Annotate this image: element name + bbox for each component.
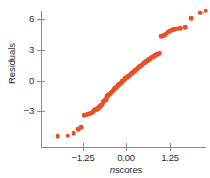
scatter-point (102, 99, 107, 104)
y-axis-label: Residuals (6, 29, 17, 99)
y-tick-mark (37, 111, 45, 112)
scatter-point (129, 71, 134, 76)
scatter-point (143, 60, 148, 65)
scatter-point (165, 30, 170, 35)
x-axis-line (42, 147, 206, 148)
scatter-point (183, 25, 188, 30)
scatter-point (141, 62, 146, 67)
scatter-point (164, 32, 169, 37)
scatter-point (142, 60, 147, 65)
scatter-point (116, 83, 121, 88)
y-tick-mark (37, 50, 45, 51)
scatter-point (178, 26, 183, 31)
scatter-point (109, 90, 114, 95)
scatter-point (112, 87, 117, 92)
scatter-point (124, 75, 129, 80)
scatter-point (119, 81, 124, 86)
x-axis-label: nscores (84, 164, 168, 175)
x-tick-mark (170, 143, 171, 151)
scatter-point (127, 73, 132, 78)
y-tick-mark (37, 19, 45, 20)
scatter-point (55, 134, 60, 139)
scatter-point (134, 67, 139, 72)
scatter-point (76, 127, 81, 132)
scatter-point (91, 109, 96, 114)
scatter-point (167, 29, 172, 34)
scatter-point (96, 106, 101, 111)
scatter-point (97, 105, 102, 110)
scatter-point (130, 71, 135, 76)
scatter-point (118, 81, 123, 86)
scatter-point (88, 111, 93, 116)
scatter-point (119, 80, 124, 85)
scatter-point (140, 62, 145, 67)
scatter-point (172, 27, 177, 32)
scatter-point (108, 91, 113, 96)
scatter-point (123, 76, 128, 81)
scatter-point (148, 56, 153, 61)
scatter-point (94, 107, 99, 112)
scatter-point (101, 100, 106, 105)
scatter-point (100, 103, 105, 108)
scatter-point (116, 84, 121, 89)
scatter-point (141, 61, 146, 66)
scatter-point (162, 33, 167, 38)
scatter-point (169, 28, 174, 33)
scatter-point (114, 85, 119, 90)
x-tick-mark (83, 143, 84, 151)
scatter-point (98, 104, 103, 109)
scatter-point (144, 59, 149, 64)
scatter-point (147, 57, 152, 62)
scatter-point (104, 97, 109, 102)
scatter-point (149, 56, 154, 61)
scatter-point (111, 88, 116, 93)
scatter-point (90, 110, 95, 115)
scatter-point (155, 52, 160, 57)
scatter-point (82, 113, 87, 118)
scatter-point (110, 89, 115, 94)
scatter-point (126, 74, 131, 79)
scatter-point (198, 11, 203, 16)
scatter-point (132, 69, 137, 74)
scatter-point (95, 107, 100, 112)
scatter-point (138, 64, 143, 69)
scatter-point (87, 111, 92, 116)
scatter-point (145, 58, 150, 63)
y-tick-label: 6 (4, 13, 34, 24)
scatter-point (139, 63, 144, 68)
scatter-point (127, 73, 132, 78)
scatter-point (104, 94, 109, 99)
scatter-point (175, 26, 180, 31)
scatter-point (137, 65, 142, 70)
scatter-point (189, 16, 194, 21)
scatter-point (135, 67, 140, 72)
scatter-point (92, 108, 97, 113)
scatter-point (146, 58, 151, 63)
scatter-point (103, 98, 108, 103)
scatter-point (150, 55, 155, 60)
scatter-point (130, 70, 135, 75)
residual-normal-quantile-plot: 630−3 −1.250.001.25 Residuals nscores (0, 0, 210, 178)
scatter-point (122, 77, 127, 82)
scatter-point (153, 53, 158, 58)
scatter-point (107, 92, 112, 97)
x-tick-label: 1.25 (148, 152, 192, 163)
scatter-point (120, 79, 125, 84)
x-tick-label: −1.25 (61, 152, 105, 163)
scatter-point (156, 51, 161, 56)
scatter-point (84, 112, 89, 117)
scatter-point (204, 9, 209, 14)
x-tick-label: 0.00 (104, 152, 148, 163)
scatter-point (106, 93, 111, 98)
scatter-point (85, 112, 90, 117)
x-axis-label-rest: scores (115, 164, 142, 175)
scatter-point (151, 54, 156, 59)
scatter-point (114, 84, 119, 89)
scatter-point (152, 54, 157, 59)
scatter-point (122, 78, 127, 83)
scatter-point (154, 52, 159, 57)
scatter-point (159, 34, 164, 39)
scatter-point (71, 131, 76, 136)
scatter-point (105, 93, 110, 98)
scatter-point (132, 69, 137, 74)
